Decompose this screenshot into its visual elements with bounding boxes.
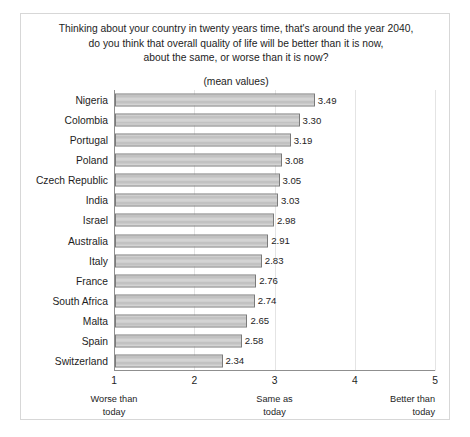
bar[interactable]: 2.58 xyxy=(115,334,242,347)
category-label: Israel xyxy=(83,215,108,226)
bar-value-label: 2.91 xyxy=(271,235,290,246)
bar[interactable]: 3.49 xyxy=(115,94,315,107)
bar[interactable]: 2.34 xyxy=(115,354,223,367)
bar-row[interactable]: Australia2.91 xyxy=(114,231,435,251)
scale-anchor-label: Better thantoday xyxy=(390,393,435,418)
scale-anchor-line: Better than xyxy=(390,393,435,406)
category-label: India xyxy=(86,195,108,206)
bar-row[interactable]: Czech Republic3.05 xyxy=(114,170,435,190)
x-axis-line xyxy=(114,370,435,371)
bar-row[interactable]: Colombia3.30 xyxy=(114,110,435,130)
bar-row[interactable]: Nigeria3.49 xyxy=(114,90,435,110)
category-label: Switzerland xyxy=(55,355,108,366)
chart-title-line: do you think that overall quality of lif… xyxy=(21,37,451,52)
category-label: Czech Republic xyxy=(36,175,108,186)
plot-area: Nigeria3.49Colombia3.30Portugal3.19Polan… xyxy=(114,90,435,371)
bar[interactable]: 3.08 xyxy=(115,154,282,167)
bar-value-label: 2.34 xyxy=(226,355,245,366)
bar[interactable]: 2.65 xyxy=(115,314,247,327)
bar-row[interactable]: Israel2.98 xyxy=(114,210,435,230)
scale-anchor-line: Worse than xyxy=(91,393,138,406)
x-tick-label: 4 xyxy=(352,375,358,386)
scale-anchor-line: Same as xyxy=(256,393,292,406)
bar-value-label: 3.05 xyxy=(283,175,302,186)
bar[interactable]: 2.76 xyxy=(115,274,256,287)
category-label: France xyxy=(76,275,108,286)
category-label: Australia xyxy=(68,235,108,246)
bar-row[interactable]: India3.03 xyxy=(114,190,435,210)
bar[interactable]: 2.91 xyxy=(115,234,268,247)
bar-value-label: 3.19 xyxy=(294,135,313,146)
x-tick-label: 5 xyxy=(432,375,438,386)
chart-title-line: Thinking about your country in twenty ye… xyxy=(21,22,451,37)
category-label: Italy xyxy=(89,255,108,266)
bar-value-label: 2.98 xyxy=(277,215,296,226)
scale-anchor-line: today xyxy=(91,406,138,419)
bar[interactable]: 3.30 xyxy=(115,114,300,127)
bar[interactable]: 3.03 xyxy=(115,194,278,207)
bar-value-label: 3.30 xyxy=(303,115,322,126)
bar[interactable]: 2.74 xyxy=(115,294,255,307)
bar-row[interactable]: France2.76 xyxy=(114,271,435,291)
bar-value-label: 2.65 xyxy=(250,315,269,326)
y-axis-line xyxy=(114,90,115,371)
chart-title: Thinking about your country in twenty ye… xyxy=(21,22,451,66)
x-tick-label: 2 xyxy=(191,375,197,386)
bar-row[interactable]: Portugal3.19 xyxy=(114,130,435,150)
category-label: Colombia xyxy=(65,115,109,126)
bar[interactable]: 2.98 xyxy=(115,214,274,227)
category-label: Poland xyxy=(76,155,108,166)
x-tick-label: 1 xyxy=(111,375,117,386)
bar-row[interactable]: Poland3.08 xyxy=(114,150,435,170)
scale-anchor-line: today xyxy=(256,406,292,419)
category-label: Spain xyxy=(82,335,108,346)
bar[interactable]: 2.83 xyxy=(115,254,262,267)
bar-value-label: 2.83 xyxy=(265,255,284,266)
gridline xyxy=(435,90,436,371)
bar-value-label: 2.74 xyxy=(258,295,277,306)
bar[interactable]: 3.05 xyxy=(115,174,280,187)
chart-subtitle: (mean values) xyxy=(21,76,451,87)
category-label: Malta xyxy=(83,315,108,326)
bar-value-label: 2.76 xyxy=(259,275,278,286)
bar-row[interactable]: Switzerland2.34 xyxy=(114,351,435,371)
scale-anchor-line: today xyxy=(390,406,435,419)
bar-row[interactable]: Spain2.58 xyxy=(114,331,435,351)
plot-inner: Nigeria3.49Colombia3.30Portugal3.19Polan… xyxy=(114,90,435,371)
scale-anchor-label: Same astoday xyxy=(256,393,292,418)
x-tick-label: 3 xyxy=(272,375,278,386)
chart-title-line: about the same, or worse than it is now? xyxy=(21,51,451,66)
category-label: Nigeria xyxy=(75,95,108,106)
bar-row[interactable]: Italy2.83 xyxy=(114,251,435,271)
bar-row[interactable]: South Africa2.74 xyxy=(114,291,435,311)
bar-value-label: 3.08 xyxy=(285,155,304,166)
scale-anchor-label: Worse thantoday xyxy=(91,393,138,418)
bar-value-label: 3.03 xyxy=(281,195,300,206)
category-label: South Africa xyxy=(52,295,108,306)
bar-row[interactable]: Malta2.65 xyxy=(114,311,435,331)
bar[interactable]: 3.19 xyxy=(115,134,291,147)
bar-value-label: 3.49 xyxy=(318,95,337,106)
chart-frame: Thinking about your country in twenty ye… xyxy=(20,13,450,420)
bar-value-label: 2.58 xyxy=(245,335,264,346)
category-label: Portugal xyxy=(70,135,108,146)
